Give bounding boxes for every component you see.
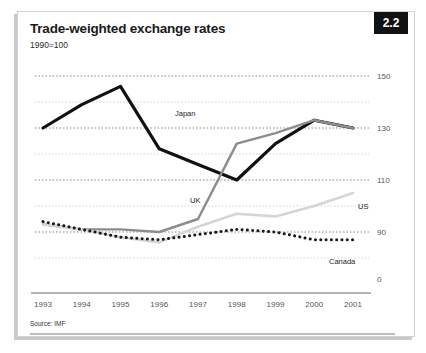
chart-series-lines bbox=[43, 86, 353, 242]
x-axis-tick-label: 1997 bbox=[189, 300, 207, 309]
series-label-canada: Canada bbox=[329, 257, 356, 266]
x-axis-tick-label: 1993 bbox=[34, 300, 52, 309]
x-axis-tick-label: 1994 bbox=[73, 300, 91, 309]
series-label-uk: UK bbox=[190, 196, 200, 205]
figure-page: Trade-weighted exchange rates 1990=100 2… bbox=[0, 0, 426, 353]
x-axis-tick-label: 1999 bbox=[267, 300, 285, 309]
y-axis-tick-label: 110 bbox=[377, 176, 390, 185]
x-axis-tick-label: 2000 bbox=[305, 300, 323, 309]
x-axis-tick-label: 1998 bbox=[228, 300, 246, 309]
footer-divider bbox=[30, 333, 395, 335]
source-note: Source: IMF bbox=[30, 320, 65, 327]
series-line-canada bbox=[43, 222, 353, 240]
series-line-uk bbox=[43, 120, 353, 232]
chart-x-axis-labels: 199319941995199619971998199920002001 bbox=[34, 300, 362, 309]
y-axis-tick-label: 150 bbox=[377, 72, 391, 81]
y-axis-zero-label: 0 bbox=[377, 275, 382, 284]
x-axis-tick-label: 2001 bbox=[344, 300, 362, 309]
chart-area: 150130110900 199319941995199619971998199… bbox=[17, 11, 415, 337]
series-label-us: US bbox=[358, 202, 368, 211]
line-chart: 150130110900 199319941995199619971998199… bbox=[17, 11, 415, 337]
x-axis-tick-label: 1996 bbox=[150, 300, 168, 309]
series-line-japan bbox=[43, 86, 353, 180]
x-axis-tick-label: 1995 bbox=[112, 300, 130, 309]
series-label-japan: Japan bbox=[175, 109, 195, 118]
y-axis-tick-label: 130 bbox=[377, 124, 391, 133]
y-axis-tick-label: 90 bbox=[377, 228, 386, 237]
chart-y-axis-labels: 150130110900 bbox=[377, 72, 391, 284]
chart-series-labels: JapanUKUSCanada bbox=[175, 109, 368, 266]
